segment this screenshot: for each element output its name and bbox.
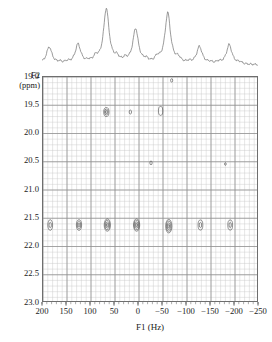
x-axis-title: F1 (Hz) <box>42 322 258 332</box>
contour-peak <box>104 108 109 117</box>
y-tick-label: 21.5 <box>1 213 39 222</box>
minor-gridlines <box>43 77 258 302</box>
y-tick-label: 20.0 <box>1 128 39 137</box>
projection-1d-svg <box>42 2 258 68</box>
y-tick-label: 19.5 <box>1 100 39 109</box>
contour-peak <box>198 220 203 230</box>
contour-peak <box>76 220 81 231</box>
y-tick-label: 20.5 <box>1 156 39 165</box>
y-tick-label: 22.5 <box>1 269 39 278</box>
projection-1d-trace <box>42 2 258 68</box>
contour-peak <box>48 220 53 231</box>
contour-plot-area[interactable] <box>42 76 258 302</box>
contour-peak <box>166 219 172 233</box>
y-tick-label: 23.0 <box>1 298 39 307</box>
y-axis-unit: (ppm) <box>4 80 40 90</box>
chart-root: F2 (ppm) 19.019.520.020.521.021.522.022.… <box>0 0 272 342</box>
y-tick-label: 21.0 <box>1 185 39 194</box>
contour-plot-svg <box>43 77 258 302</box>
y-tick-label: 19.0 <box>1 72 39 81</box>
contour-peaks-group <box>48 79 233 233</box>
y-tick-label: 22.0 <box>1 241 39 250</box>
x-tick-label: −250 <box>241 307 272 316</box>
